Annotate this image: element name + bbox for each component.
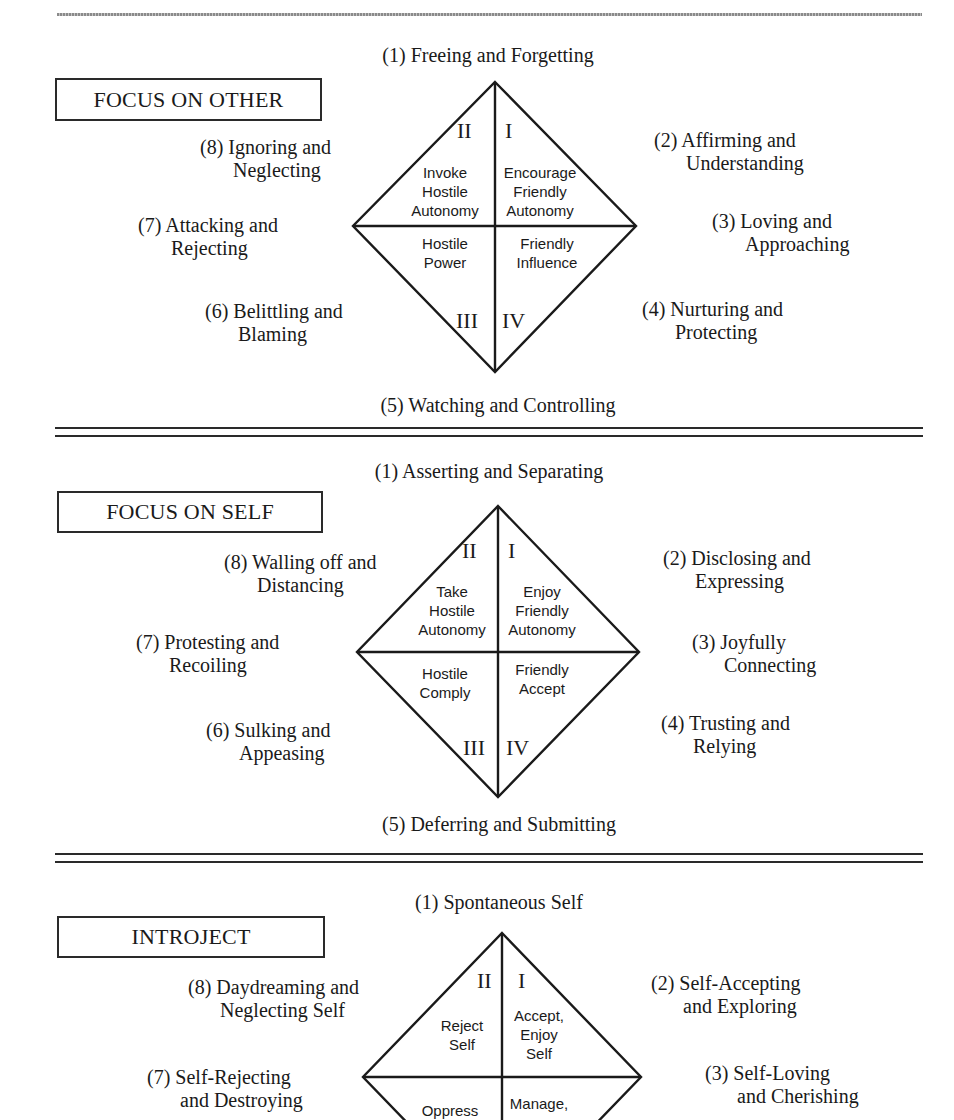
label-line: (2) Self-Accepting (651, 972, 800, 994)
quadrant-line: Manage, (510, 1094, 568, 1113)
quadrant-line: Reject (441, 1016, 484, 1035)
label-line: (7) Self-Rejecting (147, 1066, 291, 1088)
quadrant-text-II: Reject Self (441, 1016, 484, 1054)
cluster-label-7: (7) Self-Rejecting and Destroying (147, 1066, 303, 1112)
quadrant-text-IV: Manage, (510, 1094, 568, 1113)
quadrant-text-I: Accept, Enjoy Self (514, 1006, 564, 1063)
quadrant-line: Oppress (422, 1101, 479, 1120)
quadrant-numeral-I: I (518, 968, 525, 994)
cluster-label-2: (2) Self-Accepting and Exploring (651, 972, 800, 1018)
label-line: (8) Daydreaming and (188, 976, 359, 998)
quadrant-line: Self (441, 1035, 484, 1054)
quadrant-line: Self (514, 1044, 564, 1063)
label-line: and Cherishing (705, 1085, 859, 1108)
cluster-label-3: (3) Self-Loving and Cherishing (705, 1062, 859, 1108)
quadrant-line: Enjoy (514, 1025, 564, 1044)
quadrant-numeral-II: II (477, 968, 492, 994)
label-line: Neglecting Self (188, 999, 359, 1022)
quadrant-text-III: Oppress (422, 1101, 479, 1120)
cluster-label-8: (8) Daydreaming and Neglecting Self (188, 976, 359, 1022)
label-line: and Exploring (651, 995, 800, 1018)
label-line: and Destroying (147, 1089, 303, 1112)
quadrant-line: Accept, (514, 1006, 564, 1025)
label-line: (3) Self-Loving (705, 1062, 830, 1084)
